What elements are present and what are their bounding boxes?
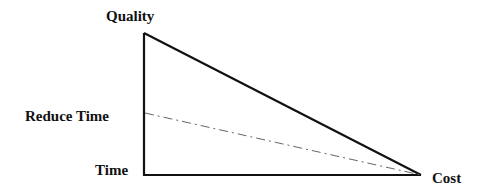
time-label: Time bbox=[95, 163, 128, 178]
reduce-time-dashdot-line bbox=[145, 113, 421, 175]
hypotenuse-line bbox=[144, 33, 421, 175]
reduce-time-label: Reduce Time bbox=[25, 109, 109, 124]
cost-label: Cost bbox=[432, 171, 461, 186]
quality-label: Quality bbox=[106, 9, 154, 24]
tradeoff-diagram: Quality Reduce Time Time Cost bbox=[0, 0, 487, 195]
triangle-graphic bbox=[0, 0, 487, 195]
